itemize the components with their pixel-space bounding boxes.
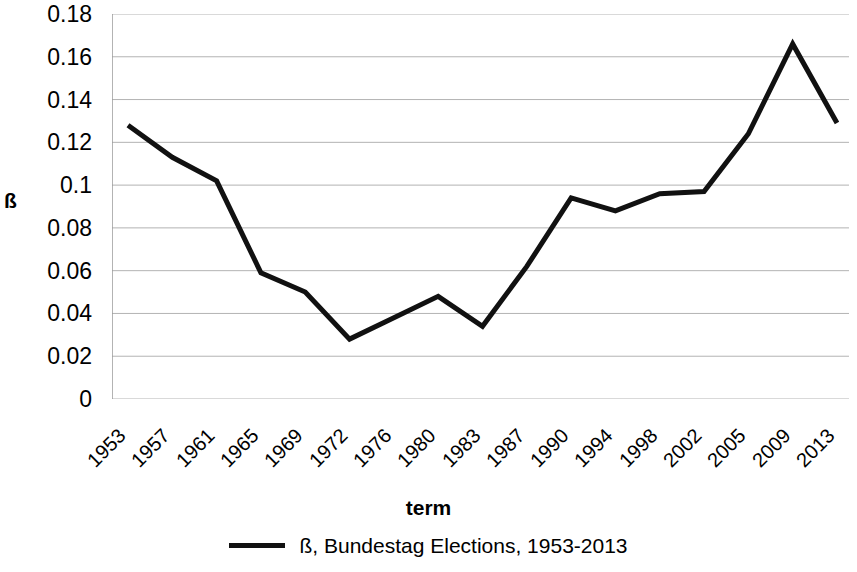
legend-line-swatch-icon — [229, 543, 285, 548]
line-chart: ß 0.180.160.140.120.10.080.060.040.020 1… — [0, 0, 857, 572]
x-axis-tick-label: 1994 — [571, 425, 617, 471]
x-axis-tick-label: 2002 — [660, 425, 706, 471]
x-axis-tick-labels: 1953195719611965196919721976198019831987… — [0, 400, 857, 490]
x-axis-tick-label: 1961 — [172, 425, 218, 471]
y-axis-tick-label: 0.08 — [47, 216, 92, 239]
x-axis-tick-label: 1969 — [261, 425, 307, 471]
y-axis-tick-label: 0.04 — [47, 302, 92, 325]
y-axis-tick-label: 0.16 — [47, 45, 92, 68]
y-axis-tick-label: 0.06 — [47, 259, 92, 282]
x-axis-tick-label: 1980 — [394, 425, 440, 471]
y-axis-tick-labels: 0.180.160.140.120.10.080.060.040.020 — [0, 0, 100, 400]
x-axis-tick-label: 2013 — [792, 425, 838, 471]
plot-svg — [112, 14, 849, 399]
x-axis-tick-label: 1953 — [83, 425, 129, 471]
gridlines — [112, 14, 849, 399]
x-axis-tick-label: 1972 — [305, 425, 351, 471]
y-axis-tick-label: 0.1 — [60, 174, 92, 197]
y-axis-tick-label: 0.02 — [47, 345, 92, 368]
legend-label-series-0: ß, Bundestag Elections, 1953-2013 — [299, 535, 627, 556]
y-axis-tick-label: 0.12 — [47, 131, 92, 154]
x-axis-tick-label: 2009 — [748, 425, 794, 471]
x-axis-tick-label: 1976 — [349, 425, 395, 471]
x-axis-tick-label: 2005 — [704, 425, 750, 471]
x-axis-tick-label: 1987 — [482, 425, 528, 471]
y-axis-tick-label: 0.18 — [47, 3, 92, 26]
y-axis-tick-label: 0.14 — [47, 88, 92, 111]
x-axis-tick-label: 1983 — [438, 425, 484, 471]
x-axis-tick-label: 1957 — [128, 425, 174, 471]
x-axis-tick-label: 1990 — [527, 425, 573, 471]
data-line-series-0 — [128, 44, 837, 339]
chart-legend: ß, Bundestag Elections, 1953-2013 — [0, 535, 857, 556]
x-axis-title: term — [0, 496, 857, 520]
x-axis-tick-label: 1998 — [615, 425, 661, 471]
plot-area — [112, 14, 849, 399]
x-axis-tick-label: 1965 — [216, 425, 262, 471]
